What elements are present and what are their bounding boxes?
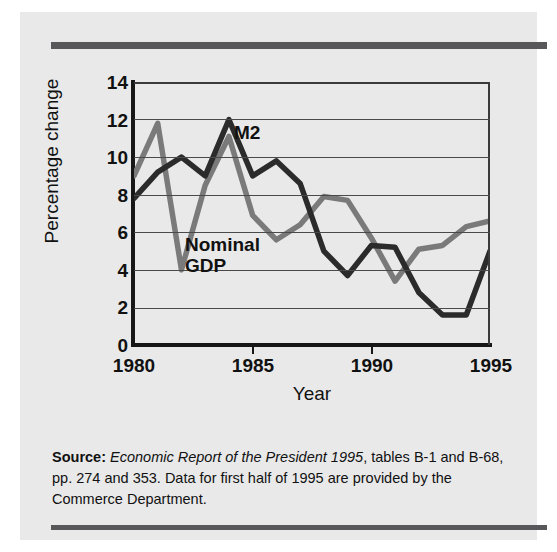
y-tick-label-6: 6 [92, 222, 128, 244]
source-caption: Source: Economic Report of the President… [52, 447, 504, 510]
x-tick-label-1985: 1985 [218, 355, 288, 377]
x-tick-1990 [371, 347, 373, 354]
y-tick-label-0: 0 [92, 335, 128, 357]
gridline-8 [134, 195, 490, 196]
gridline-10 [134, 157, 490, 158]
y-axis-title: Percentage change [41, 61, 63, 261]
y-tick-label-4: 4 [92, 260, 128, 282]
series-lines [134, 82, 490, 345]
series-label-gdp-line2: GDP [185, 255, 260, 276]
y-tick-label-10: 10 [92, 147, 128, 169]
source-label: Source: [52, 449, 106, 465]
x-tick-label-1990: 1990 [337, 355, 407, 377]
x-tick-1985 [252, 347, 254, 354]
chart-area: Percentage change 14 12 10 8 6 4 2 0 198… [0, 0, 557, 420]
y-tick-label-14: 14 [92, 72, 128, 94]
plot-region [134, 82, 490, 345]
plot-border-top [134, 82, 490, 84]
gridline-12 [134, 119, 490, 120]
x-tick-label-1980: 1980 [99, 355, 169, 377]
x-tick-label-1995: 1995 [456, 355, 526, 377]
series-label-gdp-line1: Nominal [185, 234, 260, 255]
series-label-m2: M2 [234, 122, 260, 143]
line-m2 [134, 120, 490, 315]
series-label-nominal-gdp: Nominal GDP [185, 234, 260, 276]
y-tick-label-2: 2 [92, 297, 128, 319]
x-axis-title: Year [242, 383, 382, 405]
plot-border-right [488, 82, 490, 345]
y-tick-label-8: 8 [92, 185, 128, 207]
gridline-6 [134, 232, 490, 233]
source-title: Economic Report of the President 1995 [110, 449, 363, 465]
bottom-rule [51, 525, 547, 530]
gridline-2 [134, 308, 490, 309]
y-tick-label-12: 12 [92, 110, 128, 132]
